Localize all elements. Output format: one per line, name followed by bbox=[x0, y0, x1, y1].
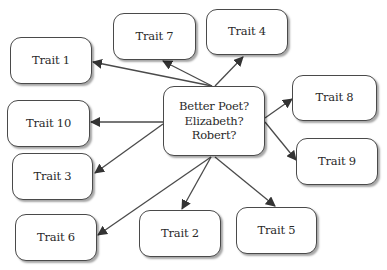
center-node[interactable]: Better Poet?Elizabeth?Robert? bbox=[163, 86, 265, 156]
node-trait-2[interactable]: Trait 2 bbox=[139, 210, 221, 257]
node-label: Trait 6 bbox=[37, 231, 75, 245]
node-label: Trait 2 bbox=[161, 227, 199, 241]
node-trait-3[interactable]: Trait 3 bbox=[12, 153, 93, 200]
node-label: Trait 7 bbox=[136, 30, 174, 44]
node-trait-7[interactable]: Trait 7 bbox=[113, 13, 196, 60]
node-label: Trait 5 bbox=[258, 224, 296, 238]
center-node-line: Robert? bbox=[192, 128, 237, 142]
edge-to-trait-5 bbox=[215, 157, 275, 206]
node-label: Trait 4 bbox=[228, 25, 266, 39]
node-trait-5[interactable]: Trait 5 bbox=[236, 207, 317, 254]
node-label: Trait 8 bbox=[316, 91, 354, 105]
center-node-line: Better Poet? bbox=[179, 99, 249, 113]
node-trait-6[interactable]: Trait 6 bbox=[15, 214, 97, 261]
center-node-line: Elizabeth? bbox=[184, 114, 243, 128]
node-label: Trait 3 bbox=[34, 170, 72, 184]
edge-to-trait-9 bbox=[265, 122, 296, 160]
edge-to-trait-8 bbox=[265, 99, 292, 118]
node-trait-1[interactable]: Trait 1 bbox=[10, 37, 92, 84]
edge-to-trait-7 bbox=[163, 61, 212, 86]
node-label: Trait 1 bbox=[32, 54, 70, 68]
node-trait-4[interactable]: Trait 4 bbox=[206, 9, 288, 55]
node-trait-8[interactable]: Trait 8 bbox=[292, 75, 377, 121]
edge-to-trait-4 bbox=[215, 57, 243, 86]
edge-to-trait-2 bbox=[182, 157, 211, 209]
edge-to-trait-1 bbox=[93, 62, 212, 86]
node-trait-10[interactable]: Trait 10 bbox=[7, 100, 90, 147]
node-trait-9[interactable]: Trait 9 bbox=[296, 138, 378, 185]
node-label: Trait 10 bbox=[26, 117, 71, 131]
edge-to-trait-3 bbox=[95, 124, 163, 173]
node-label: Trait 9 bbox=[318, 155, 356, 169]
